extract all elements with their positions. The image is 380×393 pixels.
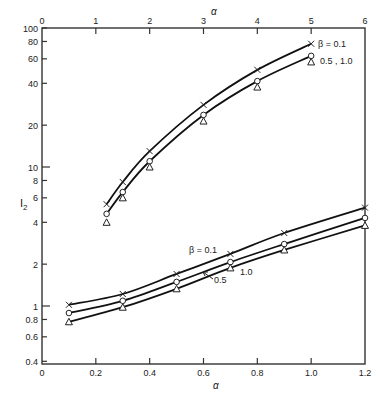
series-line (107, 44, 312, 204)
chart: 1008060402010864210.80.60.4 0123456 00.2… (0, 0, 380, 393)
series-line (107, 56, 312, 214)
x-bottom-tick-label: 0 (39, 368, 44, 378)
x-top-tick-label: 1 (93, 16, 98, 26)
x-bottom-tick-label: 0.8 (251, 368, 264, 378)
y-tick-label: 80 (28, 37, 38, 47)
y-tick-label: 6 (33, 193, 38, 203)
y-tick-label: 1 (33, 302, 38, 312)
plot-border (42, 28, 365, 364)
y-tick-label: 0.8 (25, 315, 38, 325)
circle-marker-icon (66, 310, 72, 316)
x-top-tick-label: 4 (255, 16, 260, 26)
annotation-lower-beta: β = 0.1 (189, 245, 217, 255)
triangle-marker-icon (362, 222, 369, 229)
y-tick-label: 40 (28, 79, 38, 89)
y-axis-label: I2 (20, 197, 28, 212)
x-bottom-axis-label: α (213, 380, 219, 391)
triangle-marker-icon (308, 58, 315, 65)
y-tick-label: 20 (28, 121, 38, 131)
x-bottom-tick-label: 1.0 (305, 368, 318, 378)
y-tick-label: 8 (33, 176, 38, 186)
x-marker-icon (201, 102, 207, 108)
x-bottom-tick-label: 0.4 (143, 368, 156, 378)
annotation-upper-beta: β = 0.1 (318, 39, 346, 49)
y-tick-label: 100 (23, 24, 38, 34)
circle-marker-icon (104, 211, 110, 217)
annotation-lower-10: 1.0 (240, 267, 253, 277)
plot-frame (42, 28, 365, 364)
x-marker-icon (104, 201, 110, 207)
series-line (69, 225, 365, 321)
triangle-marker-icon (254, 84, 261, 91)
x-top-axis-label: α (211, 6, 217, 17)
x-bottom-tick-label: 0.6 (197, 368, 210, 378)
y-tick-label: 0.6 (25, 332, 38, 342)
x-bottom-tick-label: 1.2 (359, 368, 372, 378)
circle-marker-icon (362, 215, 368, 221)
x-top-tick-label: 0 (39, 16, 44, 26)
y-tick-label: 60 (28, 54, 38, 64)
annotation-upper-rest: 0.5 , 1.0 (320, 56, 353, 66)
x-bottom-tick-label: 0.2 (90, 368, 103, 378)
y-tick-label: 10 (28, 163, 38, 173)
series-line (69, 218, 365, 313)
x-marker-icon (147, 148, 153, 154)
triangle-marker-icon (200, 118, 207, 125)
y-tick-label: 2 (33, 260, 38, 270)
series-line (69, 208, 365, 305)
y-tick-label: 4 (33, 218, 38, 228)
x-axis-bottom: 00.20.40.60.81.01.2 (39, 358, 371, 378)
y-tick-label: 0.4 (25, 357, 38, 367)
y-axis: 1008060402010864210.80.60.4 (23, 24, 50, 367)
circle-marker-icon (174, 279, 180, 285)
annotation-lower-05: 0.5 (214, 275, 227, 285)
x-top-tick-label: 6 (362, 16, 367, 26)
triangle-marker-icon (103, 219, 110, 226)
x-top-tick-label: 5 (309, 16, 314, 26)
x-marker-icon (254, 67, 260, 73)
x-marker-icon (120, 179, 126, 185)
x-axis-top: 0123456 (39, 16, 367, 34)
x-top-tick-label: 3 (201, 16, 206, 26)
x-top-tick-label: 2 (147, 16, 152, 26)
